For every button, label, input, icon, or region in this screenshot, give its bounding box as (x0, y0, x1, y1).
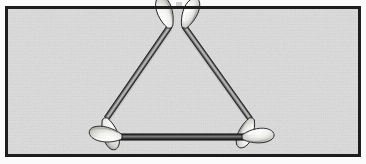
photo-grain-overlay (7, 8, 359, 155)
scan-mark-top-icon (176, 2, 182, 6)
cotton-swab-triangle-illustration (0, 0, 366, 164)
figure-root: Three cotton swabs arranged in a triangl… (0, 0, 366, 164)
